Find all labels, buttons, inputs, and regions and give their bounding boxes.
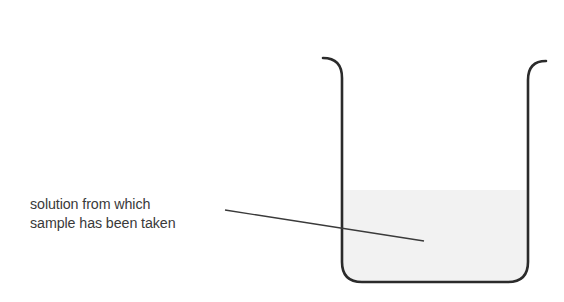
beaker-diagram [0,0,564,302]
solution-label-line-1: solution from which [30,194,176,213]
solution-label-line-2: sample has been taken [30,213,176,232]
solution-liquid [342,190,528,282]
solution-label: solution from which sample has been take… [30,194,176,232]
